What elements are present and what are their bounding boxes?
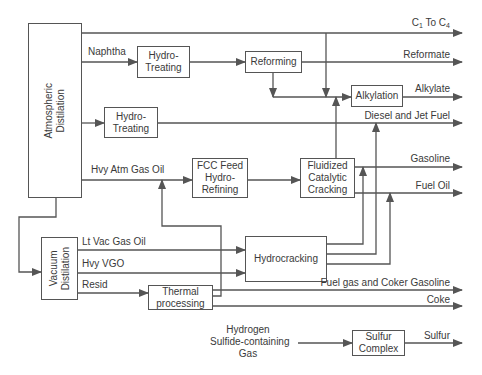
c4-subscript: 4: [446, 22, 450, 29]
hvy-atm-gas-oil-label: Hvy Atm Gas Oil: [91, 164, 164, 176]
atmospheric-distillation-unit: Atmospheric Distilation: [28, 23, 82, 198]
fluidized-catalytic-cracking-unit: Fluidized Catalytic Cracking: [300, 158, 355, 198]
fcc-feed-label-line1: FCC Feed: [197, 160, 243, 172]
lt-vac-gas-oil-label: Lt Vac Gas Oil: [82, 236, 146, 248]
fuel-oil-label: Fuel Oil: [416, 180, 450, 192]
atmospheric-label-line1: Atmospheric: [43, 83, 55, 139]
atmospheric-label-line2: Distilation: [55, 83, 67, 139]
hydrotreating1-label-line2: Treating: [145, 62, 181, 74]
fcc-feed-label-line3: Refining: [197, 184, 243, 196]
sulfur-label: Sulfur: [424, 330, 450, 342]
vacuum-label-line2: Distilation: [60, 247, 72, 290]
hydrotreating2-label-line2: Treating: [113, 123, 149, 135]
alkylation-unit: Alkylation: [351, 85, 403, 107]
fcc-label-line3: Cracking: [307, 184, 347, 196]
thermal-label-line1: Thermal: [156, 286, 204, 298]
reformate-label: Reformate: [403, 49, 450, 61]
vacuum-label-line1: Vacuum: [48, 247, 60, 290]
reforming-label: Reforming: [250, 56, 296, 68]
fcc-feed-label-line2: Hydro-: [197, 172, 243, 184]
gasoline-label: Gasoline: [411, 153, 450, 165]
sulfur-label-line1: Sulfur: [359, 331, 398, 343]
reforming-unit: Reforming: [245, 51, 302, 73]
resid-label: Resid: [82, 279, 108, 291]
thermal-processing-unit: Thermal processing: [148, 285, 213, 310]
hydrocracking-label: Hydrocracking: [254, 253, 318, 265]
h2s-label-line3: Gas: [210, 348, 286, 360]
hydrotreating1-label-line1: Hydro-: [145, 50, 181, 62]
coke-label: Coke: [427, 294, 450, 306]
c1-prefix: C: [412, 17, 419, 28]
hvy-vgo-label: Hvy VGO: [82, 258, 124, 270]
fcc-label-line2: Catalytic: [307, 172, 347, 184]
naphtha-label: Naphtha: [88, 46, 126, 58]
h2s-gas-label: Hydrogen Sulfide-containing Gas: [210, 324, 286, 360]
vacuum-distillation-unit: Vacuum Distilation: [41, 237, 78, 300]
fcc-feed-hydrorefining-unit: FCC Feed Hydro- Refining: [192, 158, 248, 198]
hydrotreating-distillate-unit: Hydro- Treating: [104, 107, 158, 138]
hydrotreating-naphtha-unit: Hydro- Treating: [137, 46, 190, 78]
diesel-jet-fuel-label: Diesel and Jet Fuel: [364, 110, 450, 122]
fcc-label-line1: Fluidized: [307, 160, 347, 172]
alkylate-label: Alkylate: [415, 83, 450, 95]
thermal-label-line2: processing: [156, 298, 204, 310]
hydrocracking-unit: Hydrocracking: [245, 236, 327, 282]
alkylation-label: Alkylation: [356, 90, 399, 102]
hydrotreating2-label-line1: Hydro-: [113, 111, 149, 123]
h2s-label-line2: Sulfide-containing: [210, 336, 286, 348]
sulfur-complex-unit: Sulfur Complex: [352, 330, 405, 356]
fuel-gas-coker-gasoline-label: Fuel gas and Coker Gasoline: [320, 277, 450, 289]
c1-to-c4-label: C1 To C4: [412, 17, 450, 32]
sulfur-label-line2: Complex: [359, 343, 398, 355]
c4-mid: To C: [423, 17, 446, 28]
h2s-label-line1: Hydrogen: [210, 324, 286, 336]
